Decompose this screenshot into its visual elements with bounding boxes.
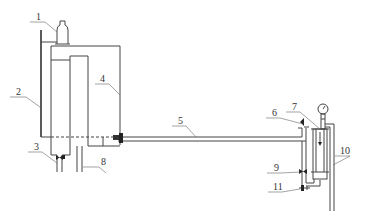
- vent-valve: [298, 118, 309, 141]
- pressure-gauge: [318, 104, 328, 129]
- flow-cylinder: [311, 129, 329, 179]
- label-5: 5: [178, 115, 183, 126]
- bottle: [55, 21, 70, 44]
- label-1: 1: [36, 11, 41, 22]
- return-pipe: [325, 124, 334, 211]
- label-4: 4: [100, 73, 105, 84]
- drain-valve: [51, 146, 70, 172]
- label-7: 7: [292, 101, 297, 112]
- leader-lines: [10, 22, 350, 192]
- label-11: 11: [273, 181, 283, 192]
- connector-pipe: [306, 179, 320, 186]
- label-2: 2: [16, 86, 21, 97]
- horizontal-pipe: [113, 133, 302, 143]
- outlet-pipe: [77, 146, 82, 172]
- label-10: 10: [340, 145, 350, 156]
- label-8: 8: [101, 156, 106, 167]
- tank: [51, 46, 120, 146]
- label-3: 3: [34, 141, 39, 152]
- label-9: 9: [274, 162, 279, 173]
- vertical-feed-pipe: [302, 141, 306, 188]
- label-6: 6: [272, 107, 277, 118]
- apparatus-diagram: 1 2 3 4 5 6 7 8 9 10 11: [0, 0, 365, 211]
